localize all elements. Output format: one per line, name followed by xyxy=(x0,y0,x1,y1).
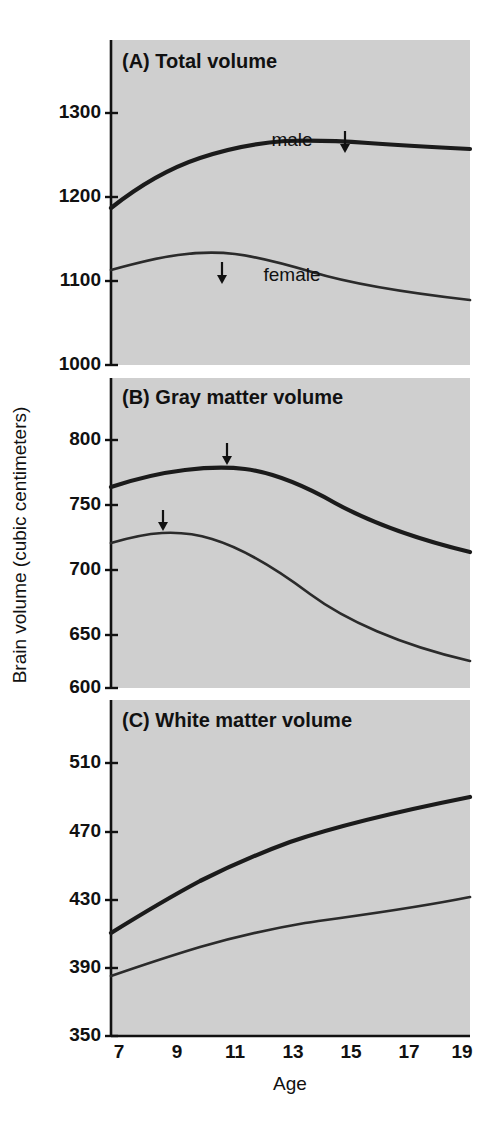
x-tick-label: 19 xyxy=(451,1041,472,1062)
panel-b-tick-label: 650 xyxy=(69,623,101,644)
panel-c-background xyxy=(111,700,470,1036)
panel-c-tick-label: 350 xyxy=(69,1024,101,1045)
panel-a: (A) Total volume 1300 1200 1100 1000 mal… xyxy=(59,40,470,374)
x-tick-label: 15 xyxy=(340,1041,362,1062)
panel-b-tick-label: 700 xyxy=(69,558,101,579)
panel-a-y-ticks: 1300 1200 1100 1000 xyxy=(59,101,118,374)
x-tick-label: 11 xyxy=(225,1041,246,1062)
panel-c-tick-label: 430 xyxy=(69,888,101,909)
x-tick-label: 13 xyxy=(282,1041,303,1062)
panel-a-tick-label: 1100 xyxy=(60,269,101,290)
panel-a-female-label: female xyxy=(263,264,320,285)
panel-b-tick-label: 750 xyxy=(69,493,101,514)
panel-b-tick-label: 600 xyxy=(69,676,101,697)
panel-a-tick-label: 1200 xyxy=(59,185,101,206)
panel-a-tick-label: 1300 xyxy=(59,101,101,122)
x-axis-ticks: 7 9 11 13 15 17 19 xyxy=(114,1041,473,1062)
panel-a-title: (A) Total volume xyxy=(122,50,277,72)
x-tick-label: 7 xyxy=(114,1041,125,1062)
panel-c-title: (C) White matter volume xyxy=(122,709,352,731)
x-axis-title: Age xyxy=(273,1073,307,1094)
brain-volume-figure: (A) Total volume 1300 1200 1100 1000 mal… xyxy=(0,0,499,1132)
y-axis-title: Brain volume (cubic centimeters) xyxy=(9,407,30,684)
panel-a-tick-label: 1000 xyxy=(59,353,101,374)
panel-b: (B) Gray matter volume 800 750 700 650 6… xyxy=(69,378,470,697)
panel-c: (C) White matter volume 510 470 430 390 … xyxy=(69,700,472,1062)
x-tick-label: 17 xyxy=(398,1041,419,1062)
panel-a-background xyxy=(111,40,470,365)
panel-b-tick-label: 800 xyxy=(69,428,101,449)
panel-b-title: (B) Gray matter volume xyxy=(122,386,343,408)
panel-a-male-label: male xyxy=(271,129,312,150)
x-tick-label: 9 xyxy=(172,1041,183,1062)
panel-c-tick-label: 390 xyxy=(69,956,101,977)
panel-c-tick-label: 470 xyxy=(69,820,101,841)
panel-c-tick-label: 510 xyxy=(69,751,101,772)
